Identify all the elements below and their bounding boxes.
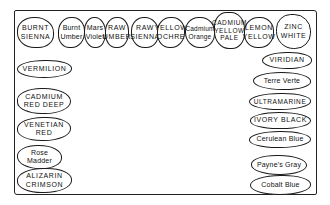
paint-well-ivory-black: IVORY BLACK (250, 112, 311, 129)
paint-well-rose-madder: Rose Madder (17, 145, 62, 169)
paint-well-viridian: VIRIDIAN (262, 52, 312, 69)
paint-well-paynes-gray: Payne's Gray (251, 155, 307, 175)
paint-well-burnt-sienna: BURNT SIENNA (17, 17, 54, 48)
paint-well-raw-umber: RAW UMBER (105, 17, 129, 48)
paint-well-yellow-ochre: YELLOW OCHRE (157, 17, 185, 48)
paint-well-terre-verte: Terre Verte (253, 72, 311, 90)
paint-well-lemon-yellow: LEMON YELLOW (244, 17, 274, 48)
paint-well-venetian-red: VENETIAN RED (17, 117, 71, 141)
paint-well-alizarin-crimson: ALIZARIN CRIMSON (17, 168, 72, 193)
paint-well-ultramarine: ULTRAMARINE (249, 93, 311, 110)
paint-well-cadmium-orange: Cadmium Orange (185, 17, 215, 48)
paint-well-vermilion: VERMILION (17, 60, 72, 78)
paint-well-burnt-umber: Burnt Umber (58, 17, 85, 48)
paint-well-zinc-white: ZINC WHITE (276, 14, 311, 49)
paint-well-cobalt-blue: Cobalt Blue (250, 175, 311, 195)
paint-well-cadmium-yellow-pale: CADMIUM YELLOW PALE (214, 12, 245, 49)
paint-well-cadmium-red-deep: CADMIUM RED DEEP (17, 88, 71, 114)
paint-well-cerulean-blue: Cerulean Blue (249, 131, 311, 148)
